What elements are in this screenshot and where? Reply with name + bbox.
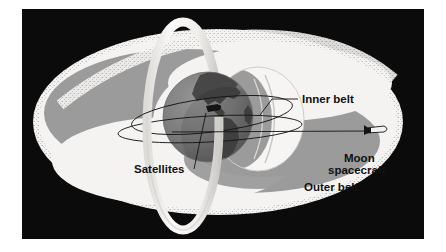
label-satellites: Satellites	[134, 163, 185, 175]
label-moon-spacecraft-line1: Moon	[344, 152, 375, 164]
label-outer-belt: Outer belt	[304, 181, 358, 193]
label-moon-spacecraft-line2: spacecraft	[328, 164, 386, 176]
label-inner-belt: Inner belt	[302, 93, 354, 105]
diagram-panel: Inner belt Moon spacecraft Outer belt Sa…	[22, 9, 424, 239]
diagram-canvas: Inner belt Moon spacecraft Outer belt Sa…	[22, 9, 424, 239]
figure-stage: Inner belt Moon spacecraft Outer belt Sa…	[0, 0, 446, 252]
